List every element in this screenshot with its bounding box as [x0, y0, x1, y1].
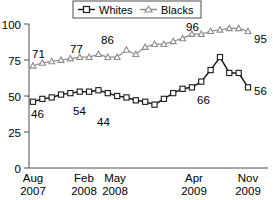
label-whites-start: 46 [31, 108, 44, 120]
data-point-triangle [208, 28, 214, 33]
data-point-triangle [142, 44, 148, 49]
x-label-4-year: 2009 [235, 185, 261, 197]
data-point-square [115, 93, 120, 98]
data-point-triangle [217, 27, 223, 32]
data-point-square [49, 95, 54, 100]
x-label-1-month: Feb [74, 172, 94, 184]
data-point-triangle [49, 58, 55, 63]
x-label-0-month: Aug [23, 172, 43, 184]
chart-legend: Whites Blacks [73, 1, 201, 18]
data-point-triangle [198, 31, 204, 36]
x-label-2-year: 2008 [102, 185, 128, 197]
data-point-square [245, 85, 250, 90]
data-point-triangle [226, 25, 232, 30]
data-point-triangle [180, 35, 186, 40]
data-point-square [227, 70, 232, 75]
data-point-triangle [58, 57, 64, 62]
y-axis-ticks: 100 75 50 25 0 [2, 19, 29, 175]
data-point-square [189, 85, 194, 90]
y-tick-label-25: 25 [8, 127, 21, 139]
data-point-triangle [95, 51, 101, 56]
data-point-square [105, 91, 110, 96]
data-point-square [236, 70, 241, 75]
x-label-3-month: Apr [185, 172, 203, 184]
data-point-square [180, 86, 185, 91]
x-label-2-month: May [104, 172, 126, 184]
data-point-triangle [245, 28, 251, 33]
data-point-square [77, 89, 82, 94]
label-whites-mid: 54 [73, 105, 86, 117]
data-point-triangle [67, 55, 73, 60]
data-point-triangle [161, 41, 167, 46]
data-point-square [96, 88, 101, 93]
data-point-square [133, 98, 138, 103]
data-point-square [124, 95, 129, 100]
series-line-whites [33, 57, 248, 105]
data-point-triangle [105, 54, 111, 59]
series-line-blacks [33, 28, 248, 65]
data-point-triangle [124, 47, 130, 52]
data-point-square [68, 91, 73, 96]
data-point-square [58, 92, 63, 97]
label-blacks-high: 86 [101, 34, 114, 46]
label-blacks-mid: 77 [70, 43, 83, 55]
data-point-square [161, 96, 166, 101]
label-blacks-start: 71 [32, 48, 45, 60]
data-point-square [217, 55, 222, 60]
y-tick-label-50: 50 [8, 91, 21, 103]
label-blacks-end: 95 [254, 33, 267, 45]
data-point-triangle [236, 25, 242, 30]
label-whites-low: 44 [97, 116, 110, 128]
y-tick-label-0: 0 [15, 163, 21, 175]
label-blacks-peak: 96 [186, 21, 199, 33]
legend-label-blacks: Blacks [161, 4, 194, 16]
series-blacks [30, 25, 251, 68]
data-point-square [86, 89, 91, 94]
data-point-triangle [39, 60, 45, 65]
legend-label-whites: Whites [99, 4, 133, 16]
x-label-3-year: 2009 [181, 185, 207, 197]
square-marker-icon [84, 7, 90, 13]
data-point-square [208, 67, 213, 72]
data-point-square [143, 99, 148, 104]
y-tick-label-75: 75 [8, 55, 21, 67]
x-label-1-year: 2008 [71, 185, 97, 197]
data-point-square [40, 96, 45, 101]
x-label-4-month: Nov [238, 172, 259, 184]
data-point-square [152, 102, 157, 107]
data-point-square [30, 99, 35, 104]
data-point-square [171, 91, 176, 96]
label-whites-late: 66 [197, 94, 210, 106]
data-point-triangle [30, 63, 36, 68]
x-axis-labels: Aug 2007 Feb 2008 May 2008 Apr 2009 Nov … [20, 172, 261, 197]
data-point-triangle [86, 54, 92, 59]
x-label-0-year: 2007 [20, 185, 46, 197]
label-whites-end: 56 [254, 85, 267, 97]
data-point-square [199, 79, 204, 84]
y-tick-label-100: 100 [2, 19, 21, 31]
chart-container: Whites Blacks 100 75 50 25 0 [0, 0, 273, 200]
line-chart: Whites Blacks 100 75 50 25 0 [0, 0, 273, 200]
data-point-triangle [152, 41, 158, 46]
data-point-triangle [170, 38, 176, 43]
